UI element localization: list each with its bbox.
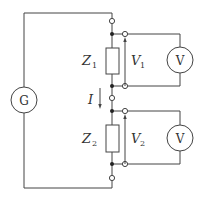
z2-subscript: 2: [92, 139, 97, 148]
v1-subscript: 1: [140, 61, 145, 70]
z1-subscript: 1: [92, 61, 97, 70]
junctions: [110, 32, 114, 166]
impedance-z2: [106, 125, 119, 152]
impedance-z1: [106, 48, 119, 74]
voltmeter-1-label: V: [175, 54, 185, 68]
wires: [24, 13, 180, 188]
generator: G: [11, 87, 37, 113]
voltmeter-1: V: [167, 47, 193, 73]
current-label: I: [87, 92, 94, 107]
current-arrow-icon: [98, 104, 101, 109]
voltmeter-2: V: [167, 125, 193, 151]
v2-subscript: 2: [140, 139, 145, 148]
z2-label: Z: [81, 131, 92, 146]
generator-label: G: [19, 94, 29, 108]
z1-label: Z: [81, 53, 92, 68]
circuit-diagram: G V V Z 1 Z 2 V 1 V 2 I: [0, 0, 204, 200]
voltmeter-2-label: V: [175, 132, 185, 146]
